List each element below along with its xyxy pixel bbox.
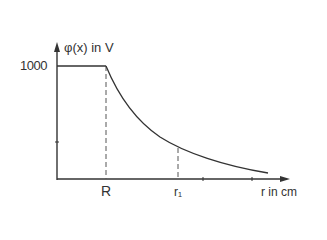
x-axis-label: r in cm bbox=[261, 186, 297, 198]
y-axis-label: φ(x) in V bbox=[64, 41, 114, 54]
x-axis-arrow-icon bbox=[280, 176, 290, 182]
x-label-R: R bbox=[101, 184, 111, 198]
y-tick-label-1000: 1000 bbox=[20, 59, 47, 72]
x-label-r1: r₁ bbox=[174, 186, 182, 198]
decay-curve bbox=[106, 66, 268, 173]
y-axis-arrow-icon bbox=[54, 42, 60, 52]
